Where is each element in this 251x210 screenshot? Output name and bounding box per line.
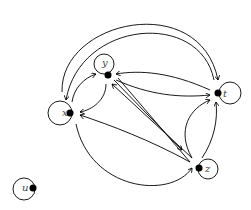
edge-t-y — [116, 72, 210, 90]
node-z — [196, 165, 203, 172]
edge-z-y — [112, 84, 192, 158]
label-u: u — [22, 182, 28, 193]
label-z: z — [204, 163, 211, 174]
node-y — [105, 72, 112, 79]
edge-z-x — [80, 115, 190, 162]
edge-y-x — [80, 84, 106, 112]
graph-canvas: x y t z u — [0, 0, 251, 210]
label-y: y — [101, 57, 108, 68]
labels: x y t z u — [22, 57, 228, 193]
edge-t-z — [202, 102, 216, 158]
edge-y-z-2 — [118, 78, 190, 162]
edges — [62, 24, 218, 185]
edge-y-t — [116, 80, 210, 96]
label-t: t — [223, 88, 228, 99]
self-loops — [13, 54, 241, 200]
node-t — [215, 90, 222, 97]
edge-x-y — [72, 74, 96, 102]
edge-z-t — [185, 100, 210, 158]
node-u — [30, 185, 37, 192]
edge-x-z — [76, 124, 192, 186]
edge-x-t-outer — [62, 24, 218, 92]
label-x: x — [62, 107, 68, 118]
